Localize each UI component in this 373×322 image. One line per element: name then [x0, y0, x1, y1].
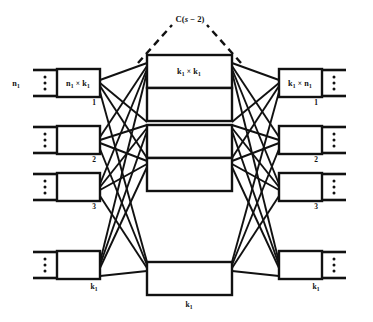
- output-switch-box[interactable]: [279, 126, 322, 154]
- output-port-ellipsis-dot: [333, 145, 336, 148]
- input-port-ellipsis-dot: [44, 88, 47, 91]
- output-port-ellipsis-dot: [333, 76, 336, 79]
- links-input-to-middle: [100, 63, 147, 276]
- input-switch-box[interactable]: [57, 126, 100, 154]
- middle-switch-box[interactable]: [147, 262, 232, 295]
- middle-switch-4[interactable]: [147, 158, 232, 191]
- link-line: [100, 167, 147, 268]
- output-stage-count-label: k1: [313, 282, 320, 292]
- output-port-ellipsis-dot: [333, 270, 336, 273]
- output-switch-index: 3: [314, 202, 318, 211]
- input-switch-2[interactable]: 2: [33, 126, 100, 164]
- link-line: [232, 167, 279, 268]
- middle-switch-box[interactable]: [147, 88, 232, 121]
- middle-switch-box[interactable]: [147, 158, 232, 191]
- input-port-ellipsis-dot: [44, 133, 47, 136]
- figure-canvas: n1 × k1 1 2 3: [0, 0, 373, 322]
- input-port-ellipsis-dot: [44, 76, 47, 79]
- input-port-ellipsis-dot: [44, 145, 47, 148]
- output-switch-index: 2: [314, 155, 318, 164]
- output-port-ellipsis-dot: [333, 186, 336, 189]
- input-switch-index: 2: [92, 155, 96, 164]
- middle-stage-count-label: k1: [186, 300, 193, 310]
- output-switch-box[interactable]: [279, 173, 322, 201]
- input-port-ellipsis-dot: [44, 82, 47, 85]
- input-port-ellipsis-dot: [44, 139, 47, 142]
- output-port-ellipsis-dot: [333, 82, 336, 85]
- clos-network-figure: n1 × k1 1 2 3: [0, 0, 373, 322]
- input-switch-index: 3: [92, 202, 96, 211]
- output-port-ellipsis-dot: [333, 258, 336, 261]
- link-line: [232, 271, 279, 276]
- output-switch-index: 1: [314, 98, 318, 107]
- input-port-ellipsis-dot: [44, 192, 47, 195]
- input-port-ellipsis-dot: [44, 264, 47, 267]
- input-switch-index: 1: [92, 98, 96, 107]
- input-port-ellipsis-dot: [44, 186, 47, 189]
- output-port-ellipsis-dot: [333, 180, 336, 183]
- input-switch-box[interactable]: [57, 173, 100, 201]
- input-stage-count-label: k1: [91, 282, 98, 292]
- output-port-ellipsis-dot: [333, 139, 336, 142]
- middle-stage-group: k1 × k1 1 2 3 k1: [147, 55, 232, 310]
- input-switch-last[interactable]: k1: [33, 251, 100, 292]
- output-port-ellipsis-dot: [333, 264, 336, 267]
- network-recursion-label: C(s − 2): [176, 14, 205, 24]
- output-switch-3[interactable]: 3: [279, 173, 346, 211]
- output-stage-group: k1 × n1 1 2 3: [279, 69, 346, 292]
- input-port-ellipsis-dot: [44, 270, 47, 273]
- input-switch-box[interactable]: [57, 251, 100, 279]
- output-port-ellipsis-dot: [333, 88, 336, 91]
- output-switch-box[interactable]: [279, 251, 322, 279]
- middle-switch-box[interactable]: [147, 125, 232, 158]
- middle-switch-label: k1 × k1: [177, 67, 201, 77]
- output-switch-1[interactable]: k1 × n1 1: [279, 69, 346, 107]
- input-switch-3[interactable]: 3: [33, 173, 100, 211]
- output-port-ellipsis-dot: [333, 133, 336, 136]
- output-switch-label: k1 × n1: [288, 79, 312, 89]
- middle-switch-last[interactable]: k1: [147, 262, 232, 310]
- output-port-ellipsis-dot: [333, 192, 336, 195]
- link-line: [100, 271, 147, 276]
- input-port-ellipsis-dot: [44, 180, 47, 183]
- input-stage-group: n1 × k1 1 2 3: [12, 69, 100, 292]
- links-middle-to-output: [232, 63, 279, 276]
- input-switch-label: n1 × k1: [66, 79, 90, 89]
- input-port-count-label: n1: [12, 79, 20, 89]
- input-port-ellipsis-dot: [44, 258, 47, 261]
- output-switch-2[interactable]: 2: [279, 126, 346, 164]
- output-switch-last[interactable]: k1: [279, 251, 346, 292]
- input-switch-1[interactable]: n1 × k1 1: [33, 69, 100, 107]
